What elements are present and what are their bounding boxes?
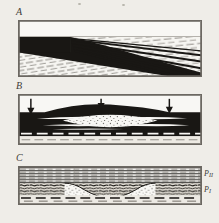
panel-letter-a: A	[16, 7, 22, 17]
panel-b-drawing	[19, 95, 201, 144]
stratum-label-lower: PI	[204, 186, 211, 195]
scan-speck	[78, 3, 81, 5]
stratum-label-upper: PII	[204, 170, 213, 179]
figure-root: A	[0, 0, 219, 223]
panel-b	[18, 94, 202, 145]
panel-c-drawing	[19, 167, 201, 204]
stratum-label-upper-subscript: II	[209, 172, 213, 178]
stratum-label-lower-subscript: I	[209, 188, 211, 194]
panel-a	[18, 20, 202, 77]
scan-speck	[122, 4, 125, 6]
panel-letter-c: C	[16, 153, 23, 163]
panel-a-drawing	[19, 21, 201, 76]
panel-c	[18, 166, 202, 205]
panel-letter-b: B	[16, 81, 22, 91]
